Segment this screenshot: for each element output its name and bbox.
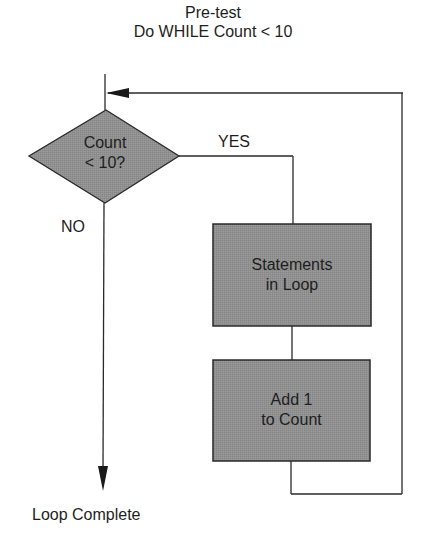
diagram-title-line1: Pre-test [0, 3, 426, 22]
no-label: NO [61, 217, 85, 236]
increment-label-line1: Add 1 [213, 390, 370, 410]
statements-label-line1: Statements [213, 255, 371, 275]
decision-label-line2: < 10? [59, 153, 151, 173]
statements-label-line2: in Loop [213, 275, 371, 295]
no-branch-line [103, 203, 104, 470]
decision-label: Count < 10? [59, 133, 151, 173]
diagram-title-line2: Do WHILE Count < 10 [0, 22, 426, 41]
increment-label: Add 1 to Count [213, 390, 370, 430]
loop-return-arrowhead [106, 88, 129, 98]
decision-label-line1: Count [59, 133, 151, 153]
yes-label: YES [218, 132, 250, 151]
exit-arrowhead [98, 466, 108, 491]
increment-label-line2: to Count [213, 410, 370, 430]
loop-complete-label: Loop Complete [32, 505, 141, 524]
statements-label: Statements in Loop [213, 255, 371, 295]
